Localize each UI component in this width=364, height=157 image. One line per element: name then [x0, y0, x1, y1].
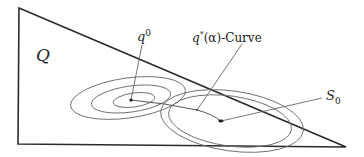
s0-label: S0	[326, 88, 341, 106]
region-label-q: Q	[36, 45, 50, 65]
q0-label-sup: 0	[145, 28, 151, 38]
q0-label: q0	[137, 28, 151, 44]
diagram: Q q0 q*(α)-Curve S0	[0, 0, 364, 157]
s0-label-base: S	[326, 88, 335, 103]
q0-contours	[68, 70, 188, 126]
q0-leader-line	[131, 45, 142, 100]
s0-leader-line	[221, 98, 322, 121]
region-q-triangle	[18, 8, 346, 147]
curve-label-q: q	[192, 31, 200, 45]
q-star-curve-label: q*(α)-Curve	[192, 30, 262, 45]
diagram-canvas	[0, 0, 364, 157]
s0-label-sub: 0	[335, 96, 341, 106]
curve-label-rest: (α)-Curve	[204, 31, 262, 45]
